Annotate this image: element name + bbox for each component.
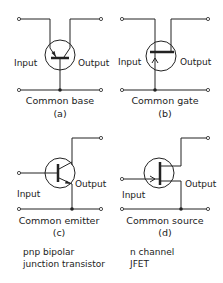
- emitter-arrow-icon: [65, 181, 72, 185]
- terminal: [99, 88, 102, 91]
- terminal: [17, 17, 20, 20]
- output-wire: [70, 19, 100, 48]
- note-left-line2: junction transistor: [22, 259, 105, 269]
- junction-dot: [179, 207, 183, 211]
- terminal: [17, 207, 20, 210]
- caption: Common source: [126, 215, 204, 226]
- output-label: Output: [185, 179, 217, 189]
- terminal: [99, 136, 102, 139]
- panel-letter: (a): [53, 108, 66, 119]
- panel-common-gate: Input Output Common gate (b): [118, 17, 212, 119]
- output-label: Output: [78, 58, 110, 68]
- panel-letter: (c): [53, 227, 66, 238]
- collector-lead: [64, 48, 70, 57]
- terminal: [120, 88, 123, 91]
- input-label: Input: [122, 190, 146, 200]
- caption: Common emitter: [19, 215, 100, 226]
- panel-letter: (b): [158, 108, 171, 119]
- terminal: [120, 207, 123, 210]
- terminal: [206, 207, 209, 210]
- note-left-line1: pnp bipolar: [23, 247, 74, 257]
- caption: Common gate: [131, 95, 198, 106]
- input-label: Input: [14, 58, 38, 68]
- terminal: [17, 88, 20, 91]
- collector-wire: [72, 138, 101, 165]
- output-wire: [171, 19, 208, 51]
- junction-dot: [58, 88, 62, 92]
- note-right-line1: n channel: [130, 247, 174, 257]
- input-wire: [20, 19, 50, 48]
- transistor-circle: [146, 41, 176, 71]
- junction-dot: [70, 207, 74, 211]
- panel-common-base: Input Output Common base (a): [14, 17, 110, 119]
- terminal: [99, 17, 102, 20]
- note-right-line2: JFET: [129, 259, 150, 269]
- terminal: [17, 171, 20, 174]
- terminal: [120, 17, 123, 20]
- terminal: [120, 177, 123, 180]
- junction-dot: [153, 88, 157, 92]
- caption: Common base: [26, 95, 95, 106]
- input-label: Input: [118, 57, 142, 67]
- drain-wire: [160, 138, 208, 166]
- terminal: [99, 207, 102, 210]
- output-label: Output: [75, 179, 107, 189]
- terminal: [206, 136, 209, 139]
- panel-letter: (d): [158, 227, 171, 238]
- source-wire: [160, 181, 181, 209]
- terminal: [206, 17, 209, 20]
- collector-lead: [59, 162, 72, 169]
- input-label: Input: [17, 189, 41, 199]
- panel-common-emitter: Input Output Common emitter (c): [17, 136, 107, 238]
- terminal: [206, 88, 209, 91]
- output-label: Output: [180, 57, 212, 67]
- panel-common-source: Input Output Common source (d): [120, 136, 216, 238]
- transistor-configurations-diagram: Input Output Common base (a) Input Outpu…: [0, 0, 223, 283]
